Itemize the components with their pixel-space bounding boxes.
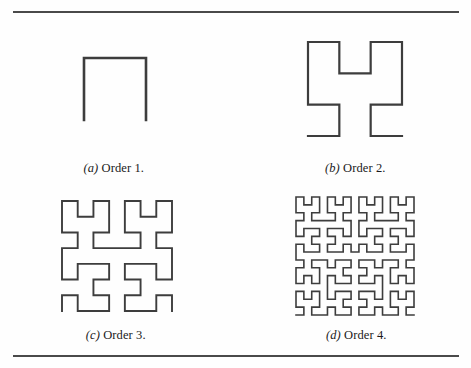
caption-order-3: (c) Order 3.: [86, 329, 146, 342]
caption-order-2: (b) Order 2.: [325, 162, 386, 175]
panel-grid: (a) Order 1. (b) Order 2. (c) Order 3.: [0, 18, 471, 350]
panel-order-1: (a) Order 1.: [0, 18, 236, 184]
caption-label-c: (c): [86, 328, 100, 342]
caption-text-d: Order 4.: [344, 328, 386, 342]
figure-page: (a) Order 1. (b) Order 2. (c) Order 3.: [0, 0, 471, 368]
hilbert-svg-order-3: [53, 192, 181, 320]
panel-order-4: (d) Order 4.: [236, 184, 471, 350]
caption-label-a: (a): [83, 161, 98, 175]
caption-label-b: (b): [325, 161, 340, 175]
panel-order-2: (b) Order 2.: [236, 18, 471, 184]
hilbert-curve-order-2: [291, 25, 419, 153]
caption-order-1: (a) Order 1.: [83, 162, 144, 175]
hilbert-path-order-4: [296, 197, 414, 315]
caption-text-a: Order 1.: [102, 161, 144, 175]
caption-text-c: Order 3.: [103, 328, 145, 342]
caption-label-d: (d): [326, 328, 341, 342]
figure-bottom-rule: [13, 355, 459, 357]
figure-top-rule: [13, 11, 459, 13]
hilbert-svg-order-1: [51, 25, 179, 153]
hilbert-path-order-2: [308, 42, 402, 136]
hilbert-path-order-3: [62, 201, 172, 311]
caption-text-b: Order 2.: [343, 161, 385, 175]
hilbert-curve-order-3: [53, 192, 181, 320]
hilbert-svg-order-4: [291, 192, 419, 320]
panel-order-3: (c) Order 3.: [0, 184, 236, 350]
hilbert-path-order-1: [84, 58, 146, 120]
hilbert-curve-order-1: [51, 25, 179, 153]
hilbert-curve-order-4: [291, 192, 419, 320]
hilbert-svg-order-2: [291, 25, 419, 153]
caption-order-4: (d) Order 4.: [326, 329, 387, 342]
